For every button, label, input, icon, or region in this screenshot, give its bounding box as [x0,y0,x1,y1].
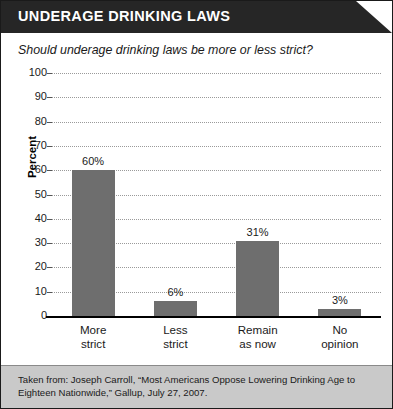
page-title: UNDERAGE DRINKING LAWS [18,8,230,24]
y-tick-mark [47,122,52,123]
bar[interactable] [318,309,361,316]
x-tick-label: Morestrict [80,323,106,351]
header-banner: UNDERAGE DRINKING LAWS [1,1,392,33]
x-tick-label-line: Less [163,323,188,337]
y-tick-label: 20 [35,260,47,272]
x-tick-label-line: No [321,323,358,337]
plot-area: 60%6%31%3% MorestrictLessstrictRemainas … [52,73,381,316]
y-tick-mark [47,73,52,74]
y-tick-label: 50 [35,188,47,200]
y-tick-mark [47,243,52,244]
y-tick-label: 60 [35,163,47,175]
y-axis-tick-labels: 1009080706050403020100 [13,73,47,316]
x-tick-label-line: as now [238,337,278,351]
source-line-2: Nationwide,” Gallup, July 27, 2007. [59,387,208,398]
x-tick-label-line: More [80,323,106,337]
y-tick-mark [47,170,52,171]
bar[interactable] [72,170,115,316]
bar-value-label: 6% [167,286,183,298]
figure-container: UNDERAGE DRINKING LAWS Should underage d… [0,0,393,409]
x-tick-label: Noopinion [321,323,358,351]
y-tick-label: 100 [29,66,47,78]
x-tick-label-line: Remain [238,323,278,337]
y-tick-label: 30 [35,236,47,248]
bar-item[interactable]: 6% [154,73,197,316]
x-tick-label-line: strict [163,337,188,351]
bar[interactable] [154,301,197,316]
y-tick-label: 40 [35,212,47,224]
source-attribution: Taken from: Joseph Carroll, “Most Americ… [18,373,380,399]
y-tick-label: 90 [35,90,47,102]
bar-item[interactable]: 60% [72,73,115,316]
bar-value-label: 60% [82,155,104,167]
chart-subtitle: Should underage drinking laws be more or… [18,43,313,57]
bar-value-label: 3% [332,294,348,306]
y-tick-label: 0 [41,309,47,321]
y-tick-label: 80 [35,115,47,127]
y-tick-label: 10 [35,285,47,297]
y-tick-mark [47,267,52,268]
bar-value-label: 31% [247,226,269,238]
y-tick-mark [47,292,52,293]
bar-item[interactable]: 31% [236,73,279,316]
x-tick-label: Lessstrict [163,323,188,351]
y-tick-mark [47,97,52,98]
bar-item[interactable]: 3% [318,73,361,316]
y-tick-mark [47,146,52,147]
y-tick-label: 70 [35,139,47,151]
footer-band: Taken from: Joseph Carroll, “Most Americ… [1,365,392,408]
x-tick-label: Remainas now [238,323,278,351]
x-axis-line [46,316,381,318]
bar[interactable] [236,241,279,316]
x-tick-label-line: strict [80,337,106,351]
y-tick-mark [47,219,52,220]
x-tick-label-line: opinion [321,337,358,351]
y-tick-mark [47,195,52,196]
